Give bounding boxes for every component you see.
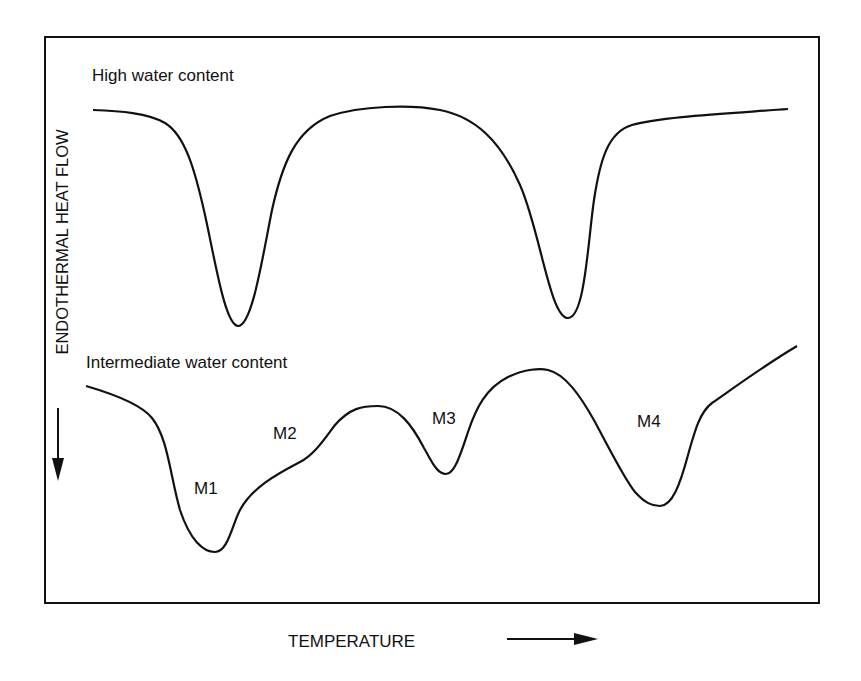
peak-label-m3: M3	[432, 409, 456, 428]
y-axis-label: ENDOTHERMAL HEAT FLOW	[53, 129, 71, 355]
dsc-thermogram-figure: High water content Intermediate water co…	[0, 0, 861, 681]
peak-label-m2: M2	[273, 424, 297, 443]
x-axis-label: TEMPERATURE	[288, 632, 415, 651]
peak-label-m4: M4	[637, 412, 661, 431]
curve-label-intermediate-water: Intermediate water content	[86, 353, 288, 372]
arrow-right-icon	[507, 633, 598, 645]
peak-label-m1: M1	[194, 479, 218, 498]
curve-label-high-water: High water content	[92, 66, 234, 85]
arrow-down-icon	[52, 408, 64, 481]
high-water-curve	[93, 107, 788, 326]
intermediate-water-curve	[86, 346, 797, 552]
